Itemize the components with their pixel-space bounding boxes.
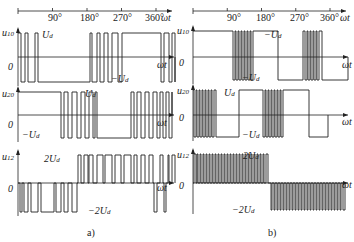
row-label-u12-b: u12 (177, 150, 189, 160)
caption-a: a) (87, 227, 95, 238)
level-label-Ud-u10-a: Ud (42, 30, 53, 40)
axis-tick-90-b: 90° (227, 13, 241, 23)
level-label-minus-2Ud-u12-a: −2Ud (88, 206, 110, 216)
level-label-minus-Ud-u20-b: −Ud (242, 130, 259, 140)
waveform-u12-a (18, 155, 175, 212)
zero-label-u20-a: 0 (8, 120, 13, 130)
omega-t-u10-a: ωt (157, 60, 167, 70)
omega-t-u12-b: ωt (342, 180, 352, 190)
axis-tick-180-b: 180° (256, 13, 275, 23)
vertical-axis-arrow-u20-a (16, 86, 20, 92)
waveform-u20-b (193, 90, 328, 137)
row-label-u12-a: u12 (2, 152, 14, 162)
vertical-axis-arrow-u20-b (191, 84, 195, 90)
zero-axis-arrow-u10-a (169, 55, 174, 59)
zero-label-u10-b: 0 (179, 58, 184, 68)
omega-t-u10-b: ωt (342, 60, 352, 70)
zero-axis-arrow-u20-a (169, 113, 174, 117)
axis-tick-90-a: 90° (48, 13, 62, 23)
vertical-axis-arrow-u10-a (16, 27, 20, 33)
zero-label-u10-a: 0 (8, 62, 13, 72)
omega-t-u20-a: ωt (157, 118, 167, 128)
zero-label-u12-b: 0 (179, 181, 184, 191)
axis-tick-360-b: 360° (320, 13, 339, 23)
level-label-minus-Ud-u10-b: −Ud (242, 73, 259, 83)
caption-b: b) (268, 227, 276, 238)
omega-t-u20-b: ωt (342, 117, 352, 127)
vertical-axis-arrow-u10-b (191, 25, 195, 31)
level-label-2Ud-u12-b: 2Ud (243, 151, 259, 161)
zero-label-u12-a: 0 (8, 184, 13, 194)
axis-tick-270-b: 270° (290, 13, 309, 23)
axis-unit-a: ωt (161, 13, 171, 23)
zero-label-u20-b: 0 (179, 113, 184, 123)
axis-tick-270-a: 270° (113, 13, 132, 23)
level-label-minus-Ud-top-u10-b: −Ud (264, 30, 281, 40)
level-label-minus-Ud-u20-a: −Ud (22, 130, 39, 140)
vertical-axis-arrow-u12-b (191, 148, 195, 154)
waveform-u12-b (193, 154, 345, 210)
row-label-u20-b: u20 (177, 86, 189, 96)
row-label-u10-a: u10 (2, 28, 14, 38)
row-label-u20-a: u20 (2, 89, 14, 99)
axis-unit-b: ωt (340, 13, 350, 23)
omega-t-u12-a: ωt (157, 183, 167, 193)
axis-tick-180-a: 180° (80, 13, 99, 23)
level-label-minus-2Ud-u12-b: −2Ud (232, 205, 254, 215)
inverter-waveform-diagram (0, 0, 354, 242)
level-label-Ud-u20-a: Ud (85, 89, 96, 99)
vertical-axis-arrow-u12-a (16, 149, 20, 155)
row-label-u10-b: u10 (177, 26, 189, 36)
level-label-2Ud-u12-a: 2Ud (44, 154, 60, 164)
level-label-Ud-u20-b: Ud (224, 88, 235, 98)
waveform-u10-a (18, 33, 175, 82)
level-label-minus-Ud-u10-a: −Ud (111, 74, 128, 84)
